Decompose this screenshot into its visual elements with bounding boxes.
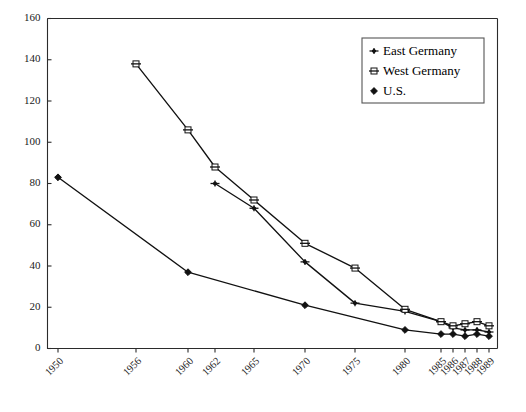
legend-item-label: West Germany <box>383 63 461 78</box>
series-markers-east-germany <box>211 181 494 336</box>
data-point-marker <box>486 333 493 340</box>
series-line-east-germany <box>215 184 489 333</box>
data-point-marker <box>402 327 409 334</box>
x-tick-label: 1956 <box>121 355 144 378</box>
y-tick-label: 140 <box>24 52 41 64</box>
x-tick-label: 1970 <box>290 355 313 378</box>
y-tick-label: 20 <box>30 300 42 312</box>
x-axis-tick-marks <box>58 349 489 353</box>
x-tick-label: 1960 <box>173 355 196 378</box>
y-tick-label: 80 <box>30 176 42 188</box>
series-lines <box>58 64 489 336</box>
y-axis-tick-marks <box>48 19 52 349</box>
legend-item-label: U.S. <box>383 83 406 98</box>
y-tick-label: 100 <box>24 135 41 147</box>
data-point-marker <box>252 207 255 210</box>
legend-item-label: East Germany <box>383 43 458 58</box>
x-tick-label: 1965 <box>239 355 262 378</box>
data-point-marker <box>474 331 481 338</box>
series-markers-u-s <box>55 174 493 340</box>
data-point-marker <box>303 260 306 263</box>
x-tick-label: 1962 <box>200 355 223 378</box>
data-point-marker <box>372 49 375 52</box>
data-point-marker <box>462 333 469 340</box>
data-point-marker <box>302 302 309 309</box>
y-tick-label: 40 <box>30 259 42 271</box>
data-point-marker <box>438 331 445 338</box>
x-tick-label: 1975 <box>340 355 363 378</box>
y-axis-tick-labels: 020406080100120140160 <box>24 11 41 353</box>
data-point-marker <box>213 182 216 185</box>
x-tick-label: 1950 <box>43 355 66 378</box>
y-tick-label: 120 <box>24 94 41 106</box>
legend-item-west-germany[interactable]: West Germany <box>369 63 461 78</box>
y-tick-label: 160 <box>24 11 41 23</box>
line-chart-figure: 020406080100120140160 195019561960196219… <box>0 0 526 412</box>
data-point-marker <box>353 302 356 305</box>
series-line-u-s <box>58 177 489 336</box>
y-tick-label: 60 <box>30 217 42 229</box>
x-tick-label: 1980 <box>390 355 413 378</box>
data-point-marker <box>463 328 466 331</box>
y-tick-label: 0 <box>35 341 41 353</box>
x-axis-tick-labels: 1950195619601962196519701975198019851986… <box>43 355 497 378</box>
legend-item-east-germany[interactable]: East Germany <box>370 43 458 58</box>
chart-container: 020406080100120140160 195019561960196219… <box>0 0 526 412</box>
chart-legend: East GermanyWest GermanyU.S. <box>362 38 484 103</box>
data-point-marker <box>450 331 457 338</box>
